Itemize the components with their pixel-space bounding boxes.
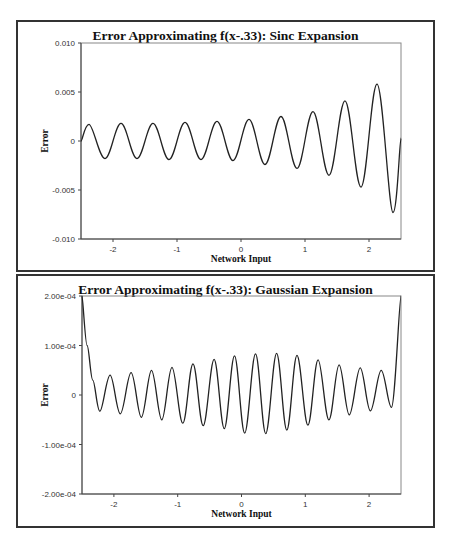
x-tick-label: -2 — [110, 500, 118, 509]
x-tick-label: 1 — [303, 500, 308, 509]
x-tick-label: -1 — [173, 245, 181, 254]
x-tick-label: 2 — [367, 500, 372, 509]
y-tick-label: 0.005 — [55, 88, 76, 97]
x-tick-label: -2 — [109, 245, 117, 254]
plot-area-frame — [82, 296, 401, 494]
x-axis-title: Network Input — [211, 254, 272, 264]
chart-1-plot: 2.00e-041.00e-040-1.00e-04-2.00e-04-2-10… — [40, 292, 401, 519]
y-tick-label: 1.00e-04 — [44, 342, 76, 351]
y-tick-label: -2.00e-04 — [42, 490, 77, 499]
x-tick-label: 0 — [239, 245, 244, 254]
y-tick-label: 0 — [72, 391, 77, 400]
x-axis-title: Network Input — [211, 509, 272, 519]
y-tick-label: -1.00e-04 — [42, 441, 77, 450]
plot-canvas: 0.0100.0050-0.005-0.010-2-1012Network In… — [0, 0, 451, 547]
y-tick-label: 2.00e-04 — [44, 292, 76, 301]
chart-0-plot: 0.0100.0050-0.005-0.010-2-1012Network In… — [40, 39, 401, 264]
y-tick-label: -0.010 — [52, 235, 75, 244]
x-tick-label: 1 — [303, 245, 308, 254]
y-tick-label: 0.010 — [55, 39, 76, 48]
x-tick-label: 2 — [367, 245, 372, 254]
y-axis-title: Error — [40, 128, 50, 152]
error-curve — [82, 296, 401, 434]
y-axis-title: Error — [40, 382, 50, 406]
x-tick-label: -1 — [174, 500, 182, 509]
y-tick-label: 0 — [71, 137, 76, 146]
error-curve — [81, 84, 401, 212]
y-tick-label: -0.005 — [52, 186, 75, 195]
x-tick-label: 0 — [239, 500, 244, 509]
